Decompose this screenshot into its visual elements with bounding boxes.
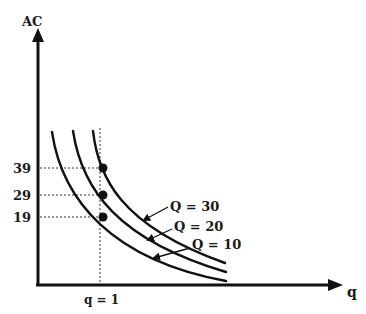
ac-curves-diagram: AC q q = 1 39 29 19 Q = 30 Q = 20 Q = 10	[0, 0, 366, 314]
label-q10: Q = 10	[192, 237, 241, 252]
point-39	[99, 164, 108, 173]
guide-lines	[40, 128, 101, 284]
tick-19: 19	[13, 210, 31, 225]
y-axis-label: AC	[21, 14, 42, 29]
x-marker-label: q = 1	[84, 293, 119, 307]
label-q20: Q = 20	[174, 219, 223, 234]
x-axis-label: q	[347, 284, 357, 300]
tick-39: 39	[13, 161, 31, 176]
arrow-q30-icon	[144, 207, 168, 220]
y-axis-arrow-icon	[32, 28, 44, 42]
point-29	[99, 191, 108, 200]
label-q30: Q = 30	[170, 199, 219, 214]
x-axis-arrow-icon	[328, 279, 343, 291]
tick-29: 29	[13, 188, 31, 203]
axes	[32, 28, 343, 291]
point-19	[99, 213, 108, 222]
